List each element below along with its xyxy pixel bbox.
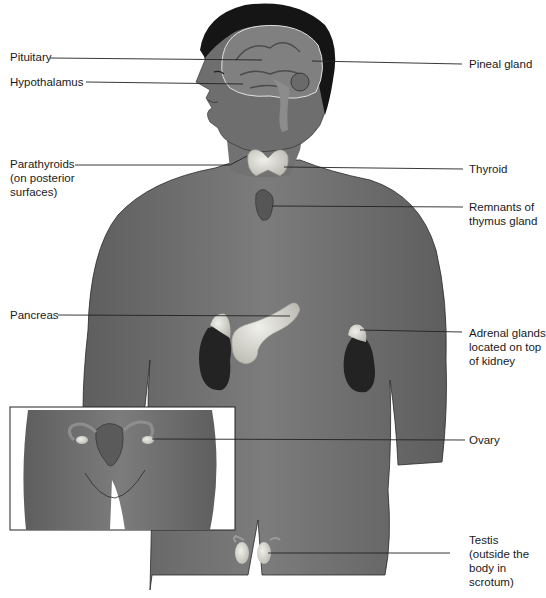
- label-ovary: Ovary: [469, 433, 500, 447]
- label-pituitary: Pituitary: [10, 50, 52, 64]
- label-thymus: Remnants of thymus gland: [469, 200, 537, 228]
- label-testis: Testis (outside the body in scrotum): [469, 533, 529, 589]
- label-parathyroids: Parathyroids (on posterior surfaces): [10, 157, 75, 199]
- female-pelvis-inset: [10, 407, 235, 530]
- left-testis: [235, 542, 249, 564]
- label-pancreas: Pancreas: [10, 308, 59, 322]
- endocrine-diagram: [0, 0, 546, 598]
- left-ovary: [76, 436, 88, 444]
- parathyroids-leader: [75, 156, 247, 165]
- label-hypothalamus: Hypothalamus: [10, 75, 84, 89]
- label-thyroid: Thyroid: [469, 162, 507, 176]
- label-pineal-gland: Pineal gland: [469, 57, 532, 71]
- right-ovary: [142, 436, 154, 444]
- label-adrenal: Adrenal glands located on top of kidney: [469, 326, 546, 368]
